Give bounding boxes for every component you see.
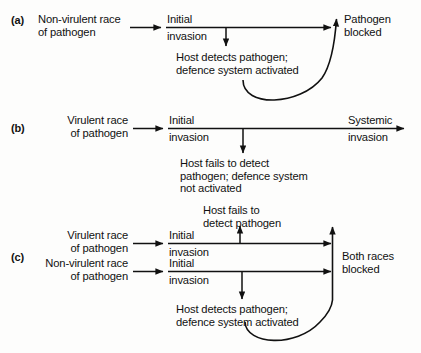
panel-c-step-bottom-below-label: invasion [169,274,209,287]
panel-a-source-label: Non-virulent race of pathogen [38,13,121,38]
panel-b-outcome-below-label: invasion [348,131,388,144]
panel-a-outcome-label: Pathogen blocked [344,13,391,38]
panel-a-step-below-label: invasion [167,30,207,43]
panel-c-source-bottom-label: Non-virulent race of pathogen [12,257,128,282]
panel-c-outcome-label: Both races blocked [342,250,394,275]
panel-c-source-top-label: Virulent race of pathogen [18,229,128,254]
panel-b-step-above-label: Initial [169,114,194,127]
panel-c-branch-up-label: Host fails to detect pathogen [203,204,281,229]
panel-c-step-bottom-above-label: Initial [169,257,194,270]
panel-b-step-below-label: invasion [169,131,209,144]
panel-a-step-above-label: Initial [167,13,192,26]
panel-a-letter: (a) [11,14,24,27]
panel-b-source-label: Virulent race of pathogen [18,114,128,139]
figure-canvas: (a) Non-virulent race of pathogen Initia… [0,0,421,353]
panel-b-outcome-above-label: Systemic [348,114,392,127]
panel-c-step-top-above-label: Initial [169,229,194,242]
panel-c-branch-down-label: Host detects pathogen; defence system ac… [176,303,299,328]
panel-a-branch-label: Host detects pathogen; defence system ac… [176,51,299,76]
panel-b-branch-label: Host fails to detect pathogen; defence s… [180,157,308,195]
